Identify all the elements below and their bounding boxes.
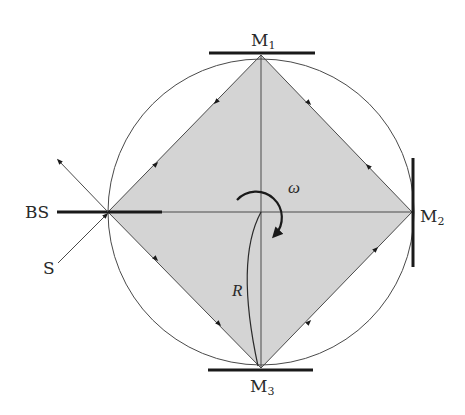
output-beam — [59, 161, 108, 212]
label-s: S — [43, 258, 55, 278]
label-radius: R — [231, 281, 243, 300]
label-m3: M3 — [250, 376, 274, 398]
label-omega: ω — [288, 178, 300, 197]
sagnac-interferometer-diagram: M1 M2 M3 BS S ω R — [0, 0, 465, 415]
label-m1: M1 — [251, 30, 275, 52]
label-bs: BS — [25, 202, 49, 222]
source-beam — [58, 215, 106, 263]
label-m2: M2 — [420, 206, 444, 228]
